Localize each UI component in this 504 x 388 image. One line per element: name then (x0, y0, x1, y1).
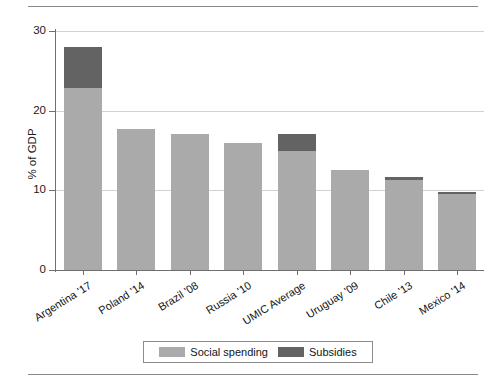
x-tick-mark (190, 270, 191, 275)
y-tick-label: 30 (18, 25, 46, 37)
bar-segment-social-spending[interactable] (278, 151, 316, 270)
chart-figure: % of GDP 0102030 Social spendingSubsidie… (0, 0, 504, 388)
x-tick-mark (350, 270, 351, 275)
x-tick-mark (404, 270, 405, 275)
bar-group[interactable] (224, 143, 262, 270)
legend-label: Social spending (190, 347, 268, 358)
legend-entry[interactable]: Social spending (159, 347, 268, 358)
bar-segment-social-spending[interactable] (117, 129, 155, 270)
bar-segment-social-spending[interactable] (64, 88, 102, 270)
y-tick-label: 0 (18, 264, 46, 276)
top-horizontal-rule (28, 6, 478, 7)
y-tick-label: 20 (18, 105, 46, 117)
bar-segment-subsidies[interactable] (438, 192, 476, 194)
bar-group[interactable] (438, 192, 476, 270)
bar-group[interactable] (331, 170, 369, 270)
y-tick-mark (49, 31, 55, 32)
gridline (56, 111, 484, 112)
bar-group[interactable] (117, 129, 155, 270)
bar-segment-subsidies[interactable] (278, 134, 316, 152)
y-tick-mark (49, 111, 55, 112)
x-tick-mark (83, 270, 84, 275)
bar-segment-social-spending[interactable] (438, 194, 476, 270)
x-tick-mark (457, 270, 458, 275)
legend-label: Subsidies (309, 347, 357, 358)
y-tick-label: 10 (18, 184, 46, 196)
bar-segment-social-spending[interactable] (171, 134, 209, 270)
x-tick-mark (136, 270, 137, 275)
chart-legend: Social spendingSubsidies (143, 341, 373, 363)
bar-group[interactable] (385, 177, 423, 270)
legend-swatch (159, 347, 185, 357)
plot-area (56, 31, 484, 270)
bar-segment-subsidies[interactable] (64, 47, 102, 88)
x-axis-line (55, 270, 484, 271)
bar-group[interactable] (171, 134, 209, 270)
bar-segment-subsidies[interactable] (385, 177, 423, 180)
legend-swatch (278, 347, 304, 357)
bar-group[interactable] (278, 134, 316, 270)
bar-segment-social-spending[interactable] (331, 170, 369, 270)
x-tick-mark (297, 270, 298, 275)
bottom-horizontal-rule (28, 374, 478, 375)
x-tick-mark (243, 270, 244, 275)
gridline (56, 31, 484, 32)
bar-group[interactable] (64, 47, 102, 270)
y-tick-mark (49, 190, 55, 191)
legend-entry[interactable]: Subsidies (278, 347, 357, 358)
y-tick-mark (49, 270, 55, 271)
bar-segment-social-spending[interactable] (385, 180, 423, 270)
bar-segment-social-spending[interactable] (224, 143, 262, 270)
